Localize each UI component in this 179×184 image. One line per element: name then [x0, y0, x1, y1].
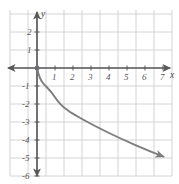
y-tick-label-neg2: -2	[22, 100, 30, 109]
origin-point-marker	[35, 66, 40, 71]
x-tick-label-3: 3	[88, 73, 93, 82]
y-tick-label-neg3: -3	[22, 118, 30, 127]
x-tick-label-2: 2	[70, 73, 75, 82]
y-tick-label-neg1: -1	[22, 82, 30, 91]
x-axis-label: x	[170, 71, 174, 81]
graph-figure: 1 2 3 4 5 6 7 2 1 -1 -2 -3 -4 -5 -6 y x	[0, 0, 179, 184]
y-tick-label-neg4: -4	[22, 136, 30, 145]
x-tick-label-6: 6	[142, 73, 147, 82]
y-tick-label-2: 2	[27, 28, 32, 37]
x-tick-label-1: 1	[52, 73, 57, 82]
y-axis-label: y	[41, 10, 45, 20]
x-tick-label-7: 7	[160, 73, 165, 82]
y-tick-label-1: 1	[27, 46, 32, 55]
y-tick-label-neg5: -5	[22, 154, 30, 163]
x-tick-label-4: 4	[106, 73, 111, 82]
y-tick-label-neg6: -6	[22, 172, 30, 181]
x-tick-label-5: 5	[124, 73, 129, 82]
